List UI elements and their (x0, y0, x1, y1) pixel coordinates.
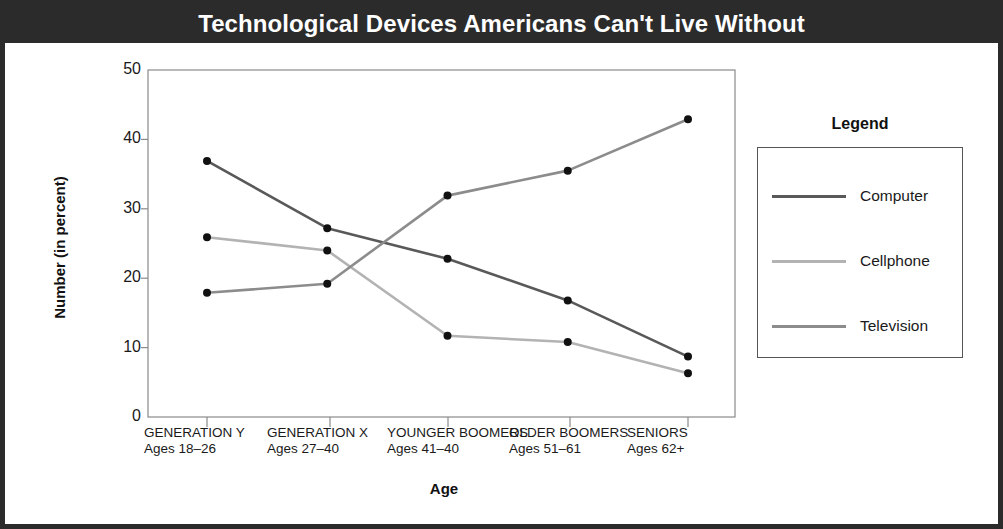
legend-swatch-computer (772, 195, 846, 198)
chart-title: Technological Devices Americans Can't Li… (198, 10, 805, 38)
data-point-computer-4 (684, 353, 692, 361)
x-category-label-3: OLDER BOOMERS Ages 51–61 (509, 425, 619, 457)
y-tick-marks (141, 139, 148, 347)
data-point-cellphone-2 (444, 332, 452, 340)
data-point-computer-3 (564, 296, 572, 304)
x-category-name: GENERATION X (267, 425, 393, 441)
x-category-ages: Ages 18–26 (144, 441, 270, 457)
data-point-cellphone-0 (203, 233, 211, 241)
x-category-ages: Ages 51–61 (509, 441, 619, 457)
chart-title-bar: Technological Devices Americans Can't Li… (5, 5, 998, 43)
chart-body: Number (in percent) Age 50 40 30 20 10 0 (5, 43, 998, 524)
data-point-cellphone-4 (684, 369, 692, 377)
legend-label-cellphone: Cellphone (860, 252, 930, 270)
data-point-television-2 (444, 192, 452, 200)
legend-label-television: Television (860, 317, 928, 335)
data-point-television-4 (684, 115, 692, 123)
data-point-television-1 (323, 280, 331, 288)
chart-page: Technological Devices Americans Can't Li… (0, 0, 1003, 529)
x-category-name: GENERATION Y (144, 425, 270, 441)
legend-box: Computer Cellphone Television (757, 147, 963, 358)
data-point-cellphone-3 (564, 338, 572, 346)
data-point-television-3 (564, 167, 572, 175)
x-category-label-1: GENERATION X Ages 27–40 (267, 425, 393, 457)
data-point-computer-0 (203, 157, 211, 165)
legend-title: Legend (757, 115, 963, 133)
x-category-name: SENIORS (627, 425, 737, 441)
legend-swatch-television (772, 325, 846, 328)
legend-item-computer[interactable]: Computer (758, 185, 964, 207)
x-category-ages: Ages 27–40 (267, 441, 393, 457)
legend-item-cellphone[interactable]: Cellphone (758, 250, 964, 272)
legend-label-computer: Computer (860, 187, 928, 205)
x-category-label-0: GENERATION Y Ages 18–26 (144, 425, 270, 457)
legend-swatch-cellphone (772, 260, 846, 263)
x-category-name: OLDER BOOMERS (509, 425, 619, 441)
data-point-computer-2 (444, 255, 452, 263)
data-point-television-0 (203, 289, 211, 297)
x-category-ages: Ages 62+ (627, 441, 737, 457)
plot-frame (148, 70, 735, 417)
x-category-ages: Ages 41–40 (387, 441, 497, 457)
x-category-name: YOUNGER BOOMERS (387, 425, 497, 441)
legend-item-television[interactable]: Television (758, 315, 964, 337)
x-category-label-2: YOUNGER BOOMERS Ages 41–40 (387, 425, 497, 457)
x-category-label-4: SENIORS Ages 62+ (627, 425, 737, 457)
data-point-computer-1 (323, 224, 331, 232)
data-point-cellphone-1 (323, 246, 331, 254)
